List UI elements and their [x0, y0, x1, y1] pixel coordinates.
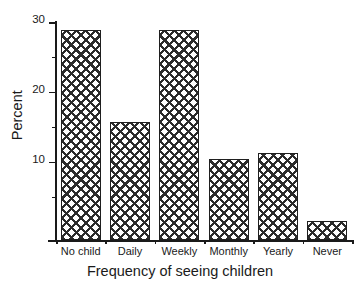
x-tick-mark	[352, 240, 354, 244]
bar	[307, 221, 347, 240]
x-axis-category-label: Weekly	[155, 246, 204, 257]
y-tick-mark	[52, 57, 56, 59]
y-tick-mark	[49, 92, 56, 94]
x-axis-category-label: Daily	[105, 246, 154, 257]
y-tick-mark	[49, 22, 56, 24]
bar	[159, 30, 199, 240]
y-tick-label: 30	[32, 14, 45, 26]
plot-area: 102030	[56, 22, 352, 240]
bar	[258, 153, 298, 240]
x-tick-mark	[105, 240, 107, 244]
bar	[61, 30, 101, 240]
y-tick-mark	[52, 197, 56, 199]
x-axis-category-label: Never	[303, 246, 352, 257]
bar-chart: 102030 No childDailyWeeklyMonthlyYearlyN…	[0, 0, 360, 288]
x-axis-line	[48, 240, 352, 242]
y-tick-mark	[52, 127, 56, 129]
y-tick-label: 10	[32, 154, 45, 166]
bar	[110, 122, 150, 240]
y-tick-mark	[49, 162, 56, 164]
x-tick-mark	[303, 240, 305, 244]
y-tick-label: 20	[32, 84, 45, 96]
x-tick-mark	[56, 240, 58, 244]
x-axis-category-label: No child	[56, 246, 105, 257]
x-axis-title: Frequency of seeing children	[0, 264, 360, 279]
x-tick-mark	[155, 240, 157, 244]
bar	[209, 159, 249, 240]
x-axis-category-label: Yearly	[253, 246, 302, 257]
x-tick-mark	[253, 240, 255, 244]
x-tick-mark	[204, 240, 206, 244]
y-axis-title: Percent	[10, 55, 25, 175]
x-axis-category-label: Monthly	[204, 246, 253, 257]
